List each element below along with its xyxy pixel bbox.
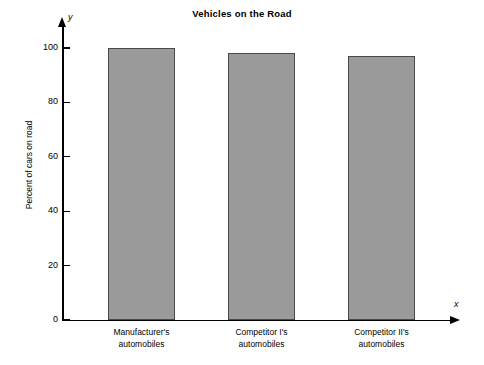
bar-chart-figure: Vehicles on the Road y x Percent of cars… bbox=[0, 0, 484, 365]
bar bbox=[348, 56, 415, 320]
y-axis-arrow-icon bbox=[58, 17, 66, 27]
category-label-line: automobiles bbox=[322, 339, 442, 351]
x-axis-symbol: x bbox=[454, 299, 459, 309]
category-label-line: Competitor I's bbox=[202, 327, 322, 339]
category-label: Competitor II'sautomobiles bbox=[322, 327, 442, 350]
category-label-line: automobiles bbox=[82, 339, 202, 351]
category-label: Manufacturer'sautomobiles bbox=[82, 327, 202, 350]
bar bbox=[108, 48, 175, 320]
x-axis-arrow-icon bbox=[450, 316, 460, 324]
y-tick-mark bbox=[62, 211, 70, 212]
y-tick-mark bbox=[62, 47, 70, 48]
y-tick-mark bbox=[62, 265, 70, 266]
y-tick-label: 20 bbox=[14, 261, 58, 270]
y-tick-mark bbox=[62, 156, 70, 157]
y-tick-label: 80 bbox=[14, 97, 58, 106]
y-axis-symbol: y bbox=[68, 12, 73, 22]
y-tick-label: 0 bbox=[14, 315, 58, 324]
y-axis-line bbox=[62, 26, 64, 321]
category-label-line: Manufacturer's bbox=[82, 327, 202, 339]
y-tick-mark bbox=[62, 319, 70, 320]
y-tick-label: 40 bbox=[14, 206, 58, 215]
bar bbox=[228, 53, 295, 320]
y-tick-label: 60 bbox=[14, 152, 58, 161]
y-tick-mark bbox=[62, 102, 70, 103]
category-label-line: automobiles bbox=[202, 339, 322, 351]
y-tick-label: 100 bbox=[14, 43, 58, 52]
category-label-line: Competitor II's bbox=[322, 327, 442, 339]
category-label: Competitor I'sautomobiles bbox=[202, 327, 322, 350]
